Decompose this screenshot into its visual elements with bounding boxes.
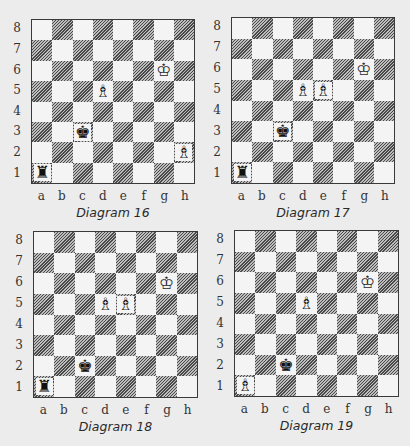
file-label: b [52, 189, 73, 203]
square-c1 [73, 163, 93, 183]
square-a6 [235, 272, 255, 293]
rank-label: 4 [211, 103, 223, 117]
square-c1 [276, 375, 296, 396]
black-king-icon: ♚ [73, 122, 93, 142]
square-a8 [32, 20, 52, 40]
file-label: f [334, 189, 355, 203]
square-g8 [154, 20, 174, 40]
file-label: c [272, 189, 293, 203]
square-d6 [95, 273, 115, 294]
square-f1 [133, 163, 153, 183]
file-label: g [154, 189, 175, 203]
file-label: h [175, 189, 196, 203]
piece-glyph: ♚ [74, 124, 91, 141]
piece-glyph: ♗ [237, 377, 254, 394]
square-b8 [52, 20, 72, 40]
square-d7 [293, 39, 313, 60]
rank-label: 1 [211, 166, 223, 180]
square-a2 [235, 355, 255, 376]
piece-glyph: ♜ [234, 164, 251, 181]
square-f7 [133, 40, 153, 60]
piece-glyph: ♜ [36, 378, 53, 395]
white-bishop-icon: ♗ [174, 142, 194, 162]
rank-label: 1 [13, 380, 25, 394]
square-c5 [73, 81, 93, 101]
square-b2 [54, 356, 74, 377]
square-d4 [296, 314, 316, 335]
square-d7 [93, 40, 113, 60]
square-c4 [273, 101, 293, 122]
square-b3 [52, 122, 72, 142]
square-a7 [232, 39, 252, 60]
square-g1 [357, 375, 377, 396]
square-a2 [232, 142, 252, 163]
square-a7 [235, 252, 255, 273]
square-h8 [174, 20, 194, 40]
square-e3 [313, 121, 333, 142]
square-c1 [273, 162, 293, 183]
file-label: d [296, 402, 317, 416]
square-f1 [337, 375, 357, 396]
square-e7 [113, 40, 133, 60]
rank-label: 1 [11, 166, 23, 180]
piece-glyph: ♚ [274, 123, 291, 140]
square-e2 [116, 356, 136, 377]
square-b1 [252, 162, 272, 183]
square-f1 [333, 162, 353, 183]
square-h1 [177, 376, 197, 397]
square-a8 [34, 232, 54, 253]
square-d7 [296, 252, 316, 273]
square-e8 [113, 20, 133, 40]
file-label: f [136, 403, 157, 417]
square-e4 [317, 314, 337, 335]
square-h8 [378, 231, 398, 252]
square-h6 [177, 273, 197, 294]
square-d5: ♗ [93, 81, 113, 101]
square-f5 [333, 80, 353, 101]
square-g3 [354, 121, 374, 142]
piece-glyph: ♚ [76, 357, 93, 374]
square-c3: ♚ [73, 122, 93, 142]
square-d3 [296, 334, 316, 355]
square-f2 [133, 142, 153, 162]
black-rook-icon: ♜ [232, 162, 252, 183]
file-label: a [234, 402, 255, 416]
square-e3 [317, 334, 337, 355]
square-g3 [156, 335, 176, 356]
square-c8 [273, 18, 293, 39]
square-a7 [32, 40, 52, 60]
square-b3 [54, 335, 74, 356]
square-g6: ♔ [357, 272, 377, 293]
square-g5 [354, 80, 374, 101]
square-f5 [133, 81, 153, 101]
square-h5 [177, 294, 197, 315]
square-c4 [75, 315, 95, 336]
file-label: f [134, 189, 155, 203]
white-king-icon: ♔ [354, 59, 374, 80]
square-f2 [333, 142, 353, 163]
square-h6 [378, 272, 398, 293]
square-h3 [378, 334, 398, 355]
square-g7 [354, 39, 374, 60]
square-b2 [252, 142, 272, 163]
rank-label: 8 [211, 19, 223, 33]
square-a6 [32, 61, 52, 81]
square-g3 [154, 122, 174, 142]
square-d3 [293, 121, 313, 142]
square-d5: ♗ [95, 294, 115, 315]
file-label: d [95, 403, 116, 417]
square-c4 [73, 102, 93, 122]
square-d5: ♗ [293, 80, 313, 101]
square-h5 [174, 81, 194, 101]
square-d1 [93, 163, 113, 183]
chess-board: ♔♗♚♗ [234, 230, 399, 397]
piece-glyph: ♗ [117, 296, 134, 313]
square-h1 [374, 162, 394, 183]
square-e5 [113, 81, 133, 101]
square-f2 [136, 356, 156, 377]
square-b5 [54, 294, 74, 315]
square-c6 [273, 59, 293, 80]
piece-glyph: ♔ [158, 275, 175, 292]
square-a1: ♜ [34, 376, 54, 397]
square-c3 [75, 335, 95, 356]
